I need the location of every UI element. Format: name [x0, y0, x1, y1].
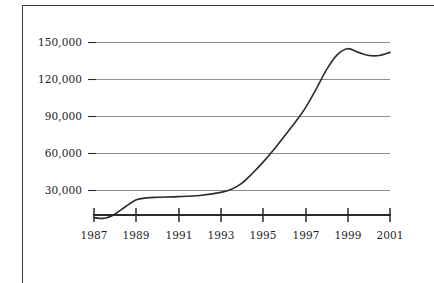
gridlines: [94, 43, 390, 191]
y-tick-label-60000: 60,000: [18, 148, 82, 159]
x-tick-label-2001: 2001: [370, 230, 410, 241]
x-tick-label-1991: 1991: [159, 230, 199, 241]
x-tick-label-1987: 1987: [74, 230, 114, 241]
y-tick-label-150000: 150,000: [18, 37, 82, 48]
y-tick-marks: [88, 43, 96, 191]
x-tick-label-1993: 1993: [201, 230, 241, 241]
x-tick-label-1997: 1997: [286, 230, 326, 241]
y-tick-label-30000: 30,000: [18, 185, 82, 196]
y-tick-label-90000: 90,000: [18, 111, 82, 122]
y-tick-label-120000: 120,000: [18, 74, 82, 85]
x-tick-label-1989: 1989: [116, 230, 156, 241]
x-tick-label-1995: 1995: [243, 230, 283, 241]
data-series-line: [94, 49, 390, 219]
x-tick-label-1999: 1999: [328, 230, 368, 241]
